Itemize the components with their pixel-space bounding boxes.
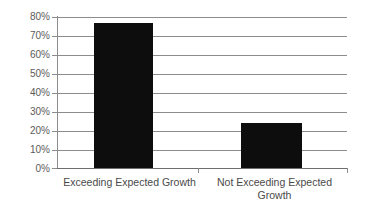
y-tick-label-80: 80% [6, 12, 50, 22]
y-tick-label-70: 70% [6, 31, 50, 41]
y-tick-label-20: 20% [6, 126, 50, 136]
y-tick-label-50: 50% [6, 69, 50, 79]
gridline-80 [57, 17, 347, 18]
y-tick-label-10: 10% [6, 145, 50, 155]
y-tick-label-30: 30% [6, 107, 50, 117]
x-axis-category-labels: Exceeding Expected Growth Not Exceeding … [57, 176, 347, 214]
y-axis-tick-labels: 80% 70% 60% 50% 40% 30% 20% 10% 0% [0, 0, 50, 216]
y-tick-label-0: 0% [6, 164, 50, 174]
bar-exceeding-expected-growth [94, 23, 153, 168]
bar-chart: 80% 70% 60% 50% 40% 30% 20% 10% 0% Excee [0, 0, 365, 216]
x-axis-tick-category-divider [198, 168, 199, 173]
x-category-label-1: Not Exceeding Expected Growth [202, 176, 347, 202]
x-category-label-0: Exceeding Expected Growth [57, 176, 202, 189]
y-tick-label-40: 40% [6, 88, 50, 98]
bar-not-exceeding-expected-growth [241, 123, 302, 168]
gridline-baseline-0 [57, 168, 347, 169]
plot-area [57, 17, 347, 168]
x-axis-tick-end [347, 168, 348, 173]
y-tick-label-60: 60% [6, 50, 50, 60]
